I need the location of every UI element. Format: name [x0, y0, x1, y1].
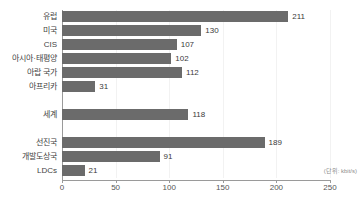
- bar-value-label: 189: [269, 136, 282, 149]
- bar-chart: 유럽211미국130CIS107아시아·태평양102아랍 국가112아프리카31…: [0, 0, 363, 201]
- category-label: 아프리카: [29, 80, 57, 93]
- x-axis-line: [62, 180, 331, 181]
- x-tick-label: 250: [323, 183, 336, 192]
- x-tick-label: 0: [60, 183, 64, 192]
- bar-row: CIS107: [62, 38, 330, 51]
- category-label: 개발도상국: [22, 150, 57, 163]
- category-label: 선진국: [36, 136, 57, 149]
- bar: [62, 39, 177, 50]
- category-label: 세계: [43, 108, 57, 121]
- category-label: 유럽: [43, 10, 57, 23]
- category-label: 미국: [43, 24, 57, 37]
- bar-row: 미국130: [62, 24, 330, 37]
- bar-row: 세계118: [62, 108, 330, 121]
- bar-value-label: 211: [292, 10, 305, 23]
- bar-row: 아프리카31: [62, 80, 330, 93]
- x-tick-label: 200: [270, 183, 283, 192]
- category-label: 아시아·태평양: [12, 52, 57, 65]
- bar-value-label: 31: [99, 80, 108, 93]
- gridline: [330, 10, 331, 178]
- bar: [62, 67, 182, 78]
- bar: [62, 11, 288, 22]
- bar: [62, 137, 265, 148]
- category-label: LDCs: [37, 164, 57, 177]
- bar-row: 유럽211: [62, 10, 330, 23]
- bar-value-label: 107: [181, 38, 194, 51]
- plot-area: 유럽211미국130CIS107아시아·태평양102아랍 국가112아프리카31…: [62, 10, 330, 178]
- x-tick-label: 100: [163, 183, 176, 192]
- bar-row: 개발도상국91: [62, 150, 330, 163]
- bar: [62, 151, 160, 162]
- bar-value-label: 91: [164, 150, 173, 163]
- bar: [62, 165, 85, 176]
- category-label: CIS: [44, 38, 57, 51]
- x-tick-label: 150: [216, 183, 229, 192]
- unit-note: (단위: kbit/s): [324, 166, 357, 175]
- bar-row: 선진국189: [62, 136, 330, 149]
- bar-value-label: 112: [186, 66, 199, 79]
- bar-row: LDCs21: [62, 164, 330, 177]
- bar-value-label: 102: [175, 52, 188, 65]
- bar: [62, 25, 201, 36]
- bar-value-label: 130: [205, 24, 218, 37]
- bar: [62, 53, 171, 64]
- bar-value-label: 21: [89, 164, 98, 177]
- bar: [62, 81, 95, 92]
- bar-value-label: 118: [192, 108, 205, 121]
- x-tick-label: 50: [111, 183, 120, 192]
- bar-row: 아시아·태평양102: [62, 52, 330, 65]
- bar-row: 아랍 국가112: [62, 66, 330, 79]
- bar: [62, 109, 188, 120]
- category-label: 아랍 국가: [27, 66, 57, 79]
- chart-title: [8, 0, 308, 8]
